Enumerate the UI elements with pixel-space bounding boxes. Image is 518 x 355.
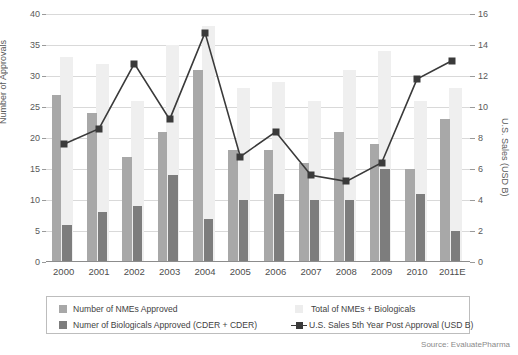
y-tick-label-right: 12 (478, 71, 500, 81)
sales-data-point (131, 60, 138, 67)
y-tick-label-right: 10 (478, 102, 500, 112)
legend-item-sales: U.S. Sales 5th Year Post Approval (USD B… (291, 318, 473, 332)
y-tick-label-left: 15 (18, 164, 40, 174)
y-axis-title-right: U.S. Sales (USD B) (500, 118, 510, 197)
sales-line (46, 14, 470, 262)
x-tick-label: 2001 (88, 266, 109, 277)
legend-swatch-biologicals-icon (59, 321, 67, 329)
y-tick-label-right: 4 (478, 195, 500, 205)
y-tick-label-right: 6 (478, 164, 500, 174)
sales-data-point (96, 125, 103, 132)
x-tick-label: 2005 (230, 266, 251, 277)
legend-label-nme: Number of NMEs Approved (73, 304, 178, 314)
sales-data-point (237, 153, 244, 160)
legend-item-nme: Number of NMEs Approved (59, 302, 257, 316)
x-tick-label: 2011E (439, 266, 466, 277)
x-tick-label: 2007 (300, 266, 321, 277)
x-tick-label: 2002 (124, 266, 145, 277)
y-tick-label-left: 40 (18, 9, 40, 19)
legend-label-sales: U.S. Sales 5th Year Post Approval (USD B… (309, 320, 473, 330)
y-tick-label-right: 0 (478, 257, 500, 267)
y-tick-mark-left (42, 262, 46, 263)
legend-item-biologicals: Numer of Biologicals Approved (CDER + CD… (59, 318, 257, 332)
legend-line-marker-icon (291, 321, 307, 329)
y-tick-mark-right (470, 107, 475, 108)
y-tick-label-right: 8 (478, 133, 500, 143)
x-tick-label: 2008 (336, 266, 357, 277)
y-tick-mark-right (470, 14, 475, 15)
y-tick-mark-right (470, 138, 475, 139)
y-tick-mark-right (470, 76, 475, 77)
x-tick-label: 2010 (406, 266, 427, 277)
y-tick-label-left: 0 (18, 257, 40, 267)
y-tick-mark-right (470, 231, 475, 232)
y-tick-label-right: 2 (478, 226, 500, 236)
y-axis-title-left: Number of Approvals (0, 40, 12, 124)
sales-data-point (166, 116, 173, 123)
y-tick-mark-right (470, 200, 475, 201)
legend-swatch-total-icon (295, 305, 303, 313)
y-tick-mark-right (470, 262, 475, 263)
legend-item-total: Total of NMEs + Biologicals (291, 302, 473, 316)
y-tick-label-left: 5 (18, 226, 40, 236)
source-note: Source: EvaluatePharma (421, 340, 510, 349)
sales-data-point (414, 76, 421, 83)
chart-legend: Number of NMEs Approved Numer of Biologi… (46, 296, 470, 334)
y-tick-label-left: 30 (18, 71, 40, 81)
sales-data-point (378, 159, 385, 166)
y-tick-label-left: 20 (18, 133, 40, 143)
y-tick-label-left: 25 (18, 102, 40, 112)
y-tick-label-right: 16 (478, 9, 500, 19)
y-tick-mark-right (470, 169, 475, 170)
legend-label-biologicals: Numer of Biologicals Approved (CDER + CD… (73, 320, 257, 330)
y-tick-label-left: 10 (18, 195, 40, 205)
plot-area (46, 14, 470, 262)
x-tick-label: 2000 (53, 266, 74, 277)
sales-data-point (449, 57, 456, 64)
sales-data-point (343, 178, 350, 185)
y-tick-label-left: 35 (18, 40, 40, 50)
y-tick-mark-right (470, 45, 475, 46)
x-tick-label: 2006 (265, 266, 286, 277)
x-tick-label: 2009 (371, 266, 392, 277)
legend-swatch-nme-icon (59, 305, 67, 313)
x-tick-label: 2004 (194, 266, 215, 277)
chart-figure: Number of Approvals U.S. Sales (USD B) 0… (0, 0, 518, 355)
sales-data-point (308, 172, 315, 179)
sales-data-point (272, 128, 279, 135)
sales-data-point (60, 141, 67, 148)
x-axis-line (46, 261, 470, 262)
sales-data-point (202, 29, 209, 36)
legend-label-total: Total of NMEs + Biologicals (311, 304, 415, 314)
x-tick-label: 2003 (159, 266, 180, 277)
y-tick-label-right: 14 (478, 40, 500, 50)
